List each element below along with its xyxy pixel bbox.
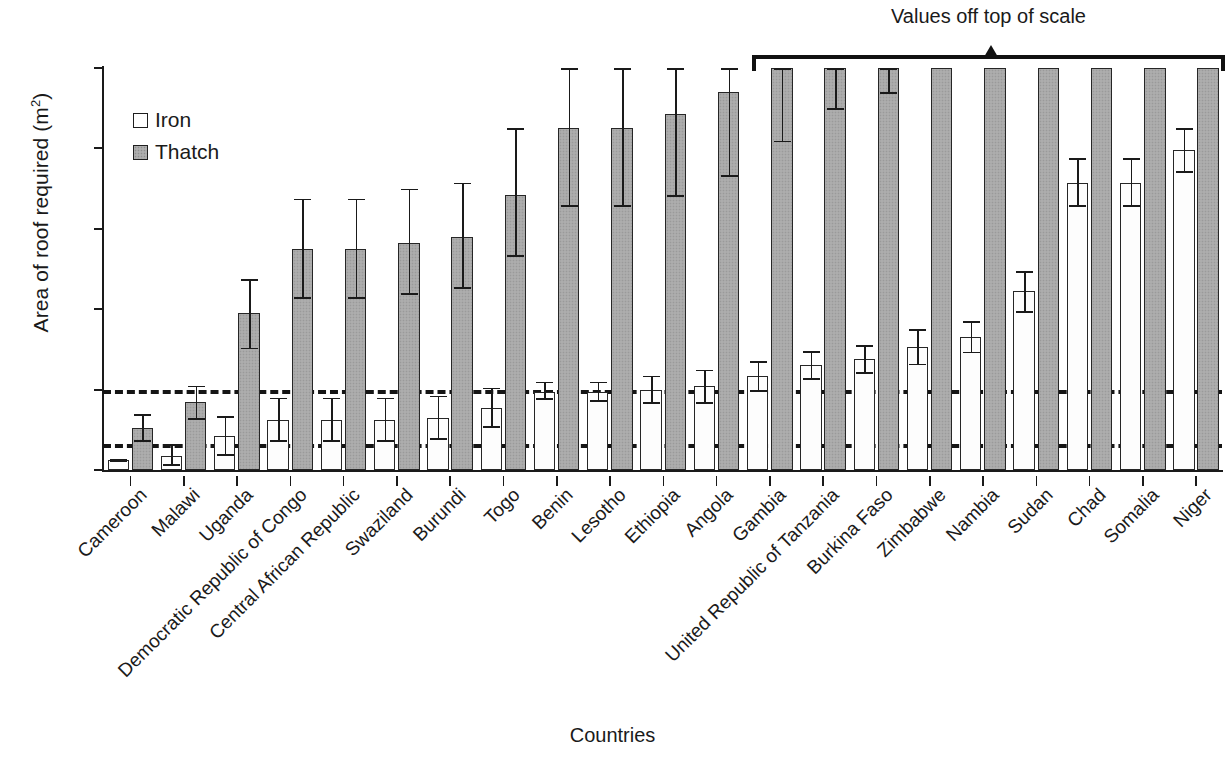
x-tick <box>609 476 611 486</box>
bar-group <box>476 68 529 470</box>
error-bar-cap-upper <box>721 68 738 70</box>
error-bar-cap-lower <box>241 348 258 350</box>
error-bar-cap-upper <box>163 444 180 446</box>
error-bar-cap-lower <box>430 438 447 440</box>
error-bar-stem <box>142 414 144 442</box>
bar-group <box>902 68 955 470</box>
error-bar-cap-lower <box>750 390 767 392</box>
bar-thatch <box>1197 68 1218 470</box>
error-bar-stem <box>569 68 571 207</box>
error-bar-cap-upper <box>856 345 873 347</box>
error-bar-cap-upper <box>134 414 151 416</box>
error-bar-cap-lower <box>188 418 205 420</box>
error-bar-cap-lower <box>1016 311 1033 313</box>
x-category-label: Togo <box>480 484 525 529</box>
error-bar-cap-upper <box>454 183 471 185</box>
error-bar-cap-lower <box>323 440 340 442</box>
x-tick <box>1142 476 1144 486</box>
y-tick-80 <box>94 308 103 310</box>
plot-area <box>103 68 1222 470</box>
error-bar-stem <box>729 68 731 177</box>
error-bar-cap-upper <box>643 376 660 378</box>
bar-thatch <box>1091 68 1112 470</box>
legend-label-iron: Iron <box>155 108 191 132</box>
x-tick <box>1195 476 1197 486</box>
bar-thatch <box>1038 68 1059 470</box>
error-bar-cap-lower <box>454 287 471 289</box>
x-tick <box>663 476 665 486</box>
x-axis-title: Countries <box>0 724 1225 747</box>
x-tick <box>876 476 878 486</box>
error-bar-cap-upper <box>1123 158 1140 160</box>
x-tick <box>183 476 185 486</box>
bar-group <box>1009 68 1062 470</box>
error-bar-stem <box>835 68 837 110</box>
bar-thatch <box>984 68 1005 470</box>
x-tick <box>1089 476 1091 486</box>
off-scale-annotation-label: Values off top of scale <box>752 5 1225 28</box>
error-bar-cap-lower <box>561 205 578 207</box>
bar-group <box>369 68 422 470</box>
bar-thatch <box>824 68 845 470</box>
error-bar-cap-lower <box>1123 205 1140 207</box>
error-bar-stem <box>1131 158 1133 206</box>
bar-group <box>263 68 316 470</box>
error-bar-cap-upper <box>377 398 394 400</box>
error-bar-cap-lower <box>401 293 418 295</box>
x-tick <box>822 476 824 486</box>
bar-group <box>1169 68 1222 470</box>
error-bar-cap-lower <box>614 205 631 207</box>
x-tick <box>396 476 398 486</box>
error-bar-stem <box>438 396 440 440</box>
error-bar-stem <box>462 183 464 290</box>
brace-right-end <box>1221 55 1225 71</box>
bar-group <box>689 68 742 470</box>
legend-label-thatch: Thatch <box>155 140 219 164</box>
error-bar-cap-lower <box>803 378 820 380</box>
error-bar-stem <box>598 382 600 402</box>
error-bar-stem <box>356 199 358 300</box>
error-bar-cap-upper <box>561 68 578 70</box>
bar-group <box>849 68 902 470</box>
bar-group <box>529 68 582 470</box>
x-category-label: Lesotho <box>567 484 630 547</box>
bar-group <box>956 68 1009 470</box>
off-scale-brace <box>752 45 1225 71</box>
error-bar-stem <box>1184 128 1186 172</box>
y-axis-title: Area of roof required (m2) <box>28 33 53 393</box>
error-bar-stem <box>758 361 760 391</box>
error-bar-cap-upper <box>323 398 340 400</box>
error-bar-cap-lower <box>163 464 180 466</box>
bar-group <box>742 68 795 470</box>
x-tick <box>236 476 238 486</box>
bar-thatch <box>878 68 899 470</box>
bar-group <box>316 68 369 470</box>
error-bar-stem <box>864 345 866 373</box>
error-bar-stem <box>917 329 919 365</box>
y-tick-120 <box>94 228 103 230</box>
error-bar-cap-upper <box>217 416 234 418</box>
x-tick <box>503 476 505 486</box>
error-bar-stem <box>171 444 173 466</box>
x-tick <box>769 476 771 486</box>
error-bar-cap-lower <box>721 175 738 177</box>
error-bar-cap-upper <box>430 396 447 398</box>
legend-swatch-thatch <box>133 145 148 160</box>
error-bar-cap-lower <box>963 352 980 354</box>
error-bar-cap-upper <box>667 68 684 70</box>
x-tick <box>130 476 132 486</box>
bar-iron <box>534 392 555 470</box>
error-bar-stem <box>888 68 890 94</box>
x-category-label: Sudan <box>1003 484 1057 538</box>
error-bar-stem <box>331 398 333 442</box>
error-bar-cap-lower <box>110 459 127 461</box>
error-bar-stem <box>704 370 706 404</box>
brace-pointer <box>984 45 998 57</box>
error-bar-cap-lower <box>590 400 607 402</box>
bar-group <box>636 68 689 470</box>
error-bar-cap-lower <box>536 398 553 400</box>
error-bar-cap-lower <box>348 297 365 299</box>
error-bar-stem <box>491 388 493 428</box>
x-tick <box>556 476 558 486</box>
error-bar-stem <box>249 279 251 349</box>
